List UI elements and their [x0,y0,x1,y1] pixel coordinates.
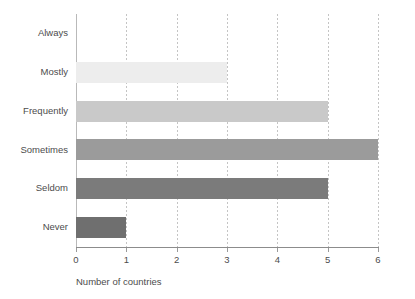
x-tick-label-5: 5 [325,254,330,265]
bar-mostly[interactable] [76,62,227,83]
bar-row-frequently [76,92,378,131]
bar-seldom[interactable] [76,178,328,199]
y-axis-label-sometimes: Sometimes [20,131,68,170]
bar-row-mostly [76,53,378,92]
y-axis-label-seldom: Seldom [36,169,68,208]
plot-area [76,14,378,247]
x-tick-mark-1 [126,248,127,252]
x-tick-label-3: 3 [224,254,229,265]
x-axis-title: Number of countries [76,276,162,287]
bar-sometimes[interactable] [76,139,378,160]
gridline-6 [378,14,379,247]
bar-chart-figure: Always Mostly Frequently Sometimes Seldo… [0,0,415,299]
x-tick-mark-2 [177,248,178,252]
x-tick-label-0: 0 [73,254,78,265]
y-axis-label-mostly: Mostly [41,53,68,92]
bar-row-always [76,14,378,53]
x-tick-mark-5 [328,248,329,252]
bar-frequently[interactable] [76,101,328,122]
x-tick-label-4: 4 [275,254,280,265]
x-tick-mark-0 [76,248,77,252]
y-axis-label-never: Never [43,208,68,247]
y-axis-label-always: Always [38,14,68,53]
bar-row-never [76,208,378,247]
x-tick-mark-3 [227,248,228,252]
bar-row-seldom [76,169,378,208]
x-tick-label-2: 2 [174,254,179,265]
x-tick-label-1: 1 [124,254,129,265]
x-tick-mark-6 [378,248,379,252]
bar-never[interactable] [76,217,126,238]
x-tick-mark-4 [277,248,278,252]
bar-row-sometimes [76,131,378,170]
x-tick-label-6: 6 [375,254,380,265]
y-axis-label-frequently: Frequently [23,92,68,131]
